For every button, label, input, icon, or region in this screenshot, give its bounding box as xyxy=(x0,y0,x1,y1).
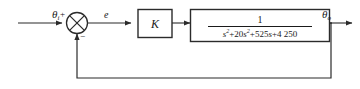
gain-block-label: K xyxy=(141,17,169,32)
error-signal-label: e xyxy=(104,10,108,20)
plant-transfer-function: 1 s2+20s2+525s+4 250 xyxy=(191,12,329,42)
summing-junction-plus-sign: + xyxy=(60,10,65,19)
summing-junction-minus-sign: − xyxy=(80,32,85,41)
block-diagram-figure: θi + − e K 1 s2+20s2+525s+4 250 θo xyxy=(0,0,360,89)
transfer-function-numerator: 1 xyxy=(258,15,263,26)
input-signal-label: θi xyxy=(52,9,59,22)
transfer-function-denominator: s2+20s2+525s+4 250 xyxy=(223,27,298,39)
output-signal-label: θo xyxy=(322,9,331,22)
